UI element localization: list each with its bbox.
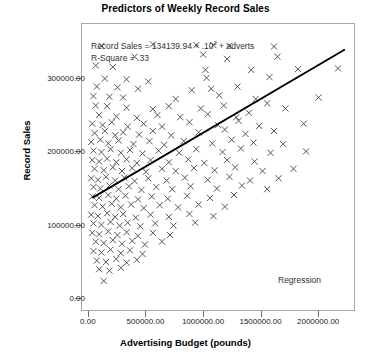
regression-line [92,49,345,197]
chart-title: Predictors of Weekly Record Sales [0,3,371,14]
y-tick-label: 300000.00 [47,73,85,82]
x-tick-label: 1000000.00 [182,317,224,326]
x-tick-label: 1500000.00 [239,317,281,326]
x-axis-title: Advertising Budget (pounds) [0,337,371,348]
x-tick-label: 0.00 [80,317,96,326]
x-tick-label: 500000.00 [127,317,165,326]
equation-text: Record Sales = 134139.94 + .10 [91,41,213,51]
regression-legend-label: Regression [278,275,321,286]
r-square-annotation: R-Square = .33 [91,53,149,64]
y-tick-label: 100000.00 [47,220,85,229]
y-tick-label: 0.00 [69,293,85,302]
x-tick-label: 2000000.00 [297,317,339,326]
equation-text-tail: + adverts [217,41,255,51]
y-tick-label: 200000.00 [47,147,85,156]
equation-annotation: Record Sales = 134139.94 + .102 + advert… [91,41,254,52]
regression-line-layer [82,24,354,310]
y-axis-title: Record Sales [21,76,32,226]
plot-area: Record Sales = 134139.94 + .102 + advert… [81,23,355,311]
scatter-chart: Predictors of Weekly Record Sales Record… [0,0,371,361]
